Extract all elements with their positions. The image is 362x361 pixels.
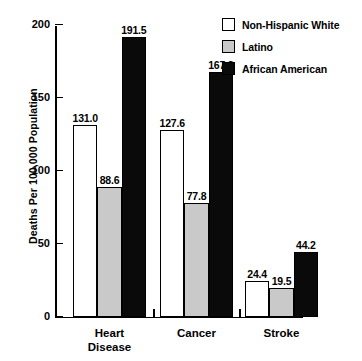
y-axis-tick-label: 50 <box>38 237 50 249</box>
bar: 19.5 <box>269 288 293 316</box>
bar: 77.8 <box>184 203 208 317</box>
y-axis-tick-label: 100 <box>32 164 50 176</box>
x-axis-line <box>55 317 303 319</box>
legend: Non-Hispanic WhiteLatinoAfrican American <box>222 18 339 84</box>
bar-chart: Deaths Per 100,000 Population 0501001502… <box>0 0 362 361</box>
legend-swatch <box>222 40 235 53</box>
y-axis-tick-label: 200 <box>32 18 50 30</box>
y-axis-tick-mark <box>55 24 63 26</box>
bar-value-label: 127.6 <box>160 117 185 129</box>
legend-item: African American <box>222 62 339 75</box>
legend-swatch <box>222 18 235 31</box>
bar-value-label: 191.5 <box>121 24 146 36</box>
legend-swatch <box>222 62 235 75</box>
bar: 167.8 <box>209 72 233 317</box>
legend-label: Latino <box>242 41 273 53</box>
legend-label: African American <box>242 63 327 75</box>
x-axis-category-label: Stroke <box>245 326 318 340</box>
bar-value-label: 44.2 <box>296 239 316 251</box>
y-axis-tick-mark <box>55 316 63 318</box>
legend-item: Non-Hispanic White <box>222 18 339 31</box>
bar: 131.0 <box>73 125 97 316</box>
y-axis-line <box>55 26 57 318</box>
y-axis-tick-mark <box>55 243 63 245</box>
y-axis-tick-label: 0 <box>44 310 50 322</box>
legend-label: Non-Hispanic White <box>242 19 339 31</box>
bar: 44.2 <box>294 252 318 317</box>
bar-value-label: 24.4 <box>247 268 267 280</box>
bar: 127.6 <box>160 130 184 316</box>
x-axis-category-label: Cancer <box>160 326 233 340</box>
y-axis-tick-mark <box>55 170 63 172</box>
bar: 24.4 <box>245 281 269 317</box>
bar: 88.6 <box>97 187 121 316</box>
bar-value-label: 88.6 <box>100 174 120 186</box>
x-axis-category-label: Heart Disease <box>73 326 146 354</box>
x-axis-tick-mark <box>239 309 241 318</box>
bar: 191.5 <box>122 37 146 317</box>
x-axis-tick-mark <box>153 309 155 318</box>
y-axis-tick-label: 150 <box>32 91 50 103</box>
bar-value-label: 19.5 <box>272 275 292 287</box>
legend-item: Latino <box>222 40 339 53</box>
y-axis-tick-mark <box>55 97 63 99</box>
bar-value-label: 77.8 <box>187 190 207 202</box>
bar-value-label: 131.0 <box>73 112 98 124</box>
